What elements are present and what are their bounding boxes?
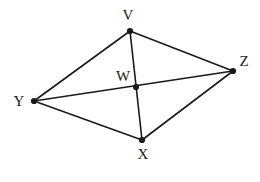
vertex-dot-X [139,137,145,143]
vertex-label-Z: Z [239,54,248,69]
edge-Y-X [34,101,142,140]
vertex-dot-V [127,28,133,34]
vertex-dots-group [31,28,236,143]
vertex-dot-Z [230,68,236,74]
vertex-label-Y: Y [14,94,25,109]
figure-canvas [0,0,260,182]
geometry-figure: V Z W Y X [0,0,260,182]
edge-X-Z [142,71,233,140]
vertex-label-X: X [138,147,149,162]
vertex-dot-W [133,84,139,90]
vertex-label-W: W [116,69,130,84]
edge-V-Y [34,31,130,101]
vertex-dot-Y [31,98,37,104]
edge-V-Z [130,31,233,71]
vertex-label-V: V [123,8,134,23]
